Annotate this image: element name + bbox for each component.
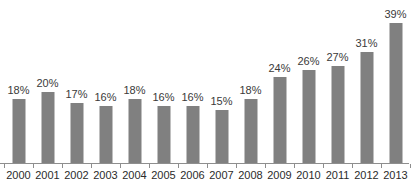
bar-group: 17% [62,0,91,164]
x-axis-tick-label: 2010 [294,168,323,182]
bar [186,106,199,164]
bar-value-label: 27% [326,51,348,63]
x-axis-tick-label: 2007 [207,168,236,182]
x-axis-tick [149,164,150,168]
x-axis-tick [62,164,63,168]
x-axis-tick [323,164,324,168]
bar-group: 16% [149,0,178,164]
bar-group: 27% [323,0,352,164]
bar [360,52,373,164]
bar-group: 18% [4,0,33,164]
x-axis-tick [352,164,353,168]
bar [70,103,83,164]
x-axis-tick [381,164,382,168]
bar-value-label: 18% [123,84,145,96]
bar [12,99,25,164]
bar [273,77,286,164]
bar [302,70,315,164]
x-axis-tick [33,164,34,168]
bar-value-label: 39% [384,8,406,20]
bar-value-label: 17% [65,88,87,100]
bar [41,92,54,164]
bar [99,106,112,164]
bar [331,66,344,164]
x-axis-tick-label: 2000 [4,168,33,182]
bar-group: 31% [352,0,381,164]
bar-group: 26% [294,0,323,164]
x-axis-tick [294,164,295,168]
bar-group: 18% [120,0,149,164]
x-axis-tick-label: 2003 [91,168,120,182]
x-axis-tick [265,164,266,168]
bar-group: 16% [178,0,207,164]
bar-group: 18% [236,0,265,164]
bar-value-label: 24% [268,62,290,74]
bar-group: 39% [381,0,410,164]
x-axis-tick-label: 2009 [265,168,294,182]
x-axis-tick-label: 2005 [149,168,178,182]
bar-value-label: 20% [36,77,58,89]
bar-value-label: 18% [239,84,261,96]
bar-group: 15% [207,0,236,164]
x-axis-tick [120,164,121,168]
bar-value-label: 15% [210,95,232,107]
x-axis-tick-label: 2006 [178,168,207,182]
bar [244,99,257,164]
x-axis-tick-label: 2011 [323,168,352,182]
x-axis-tick [91,164,92,168]
x-axis-tick-label: 2008 [236,168,265,182]
plot-area: 18%20%17%16%18%16%16%15%18%24%26%27%31%3… [0,0,409,164]
bar-value-label: 16% [181,91,203,103]
x-axis-tick [207,164,208,168]
bar-value-label: 31% [355,37,377,49]
x-axis-tick-label: 2002 [62,168,91,182]
bar-group: 16% [91,0,120,164]
bar-group: 20% [33,0,62,164]
bar-value-label: 16% [94,91,116,103]
x-axis-tick [178,164,179,168]
x-axis-tick [4,164,5,168]
bar-value-label: 16% [152,91,174,103]
bar [157,106,170,164]
x-axis-tick [236,164,237,168]
bar-value-label: 26% [297,55,319,67]
x-axis-tick-label: 2001 [33,168,62,182]
bar [215,110,228,164]
x-axis-tick-label: 2013 [381,168,410,182]
bar-value-label: 18% [7,84,29,96]
bar [389,23,402,164]
x-axis-tick-labels: 2000200120022003200420052006200720082009… [0,168,409,191]
bar [128,99,141,164]
bar-group: 24% [265,0,294,164]
x-axis-tick-label: 2004 [120,168,149,182]
x-axis-tick-label: 2012 [352,168,381,182]
